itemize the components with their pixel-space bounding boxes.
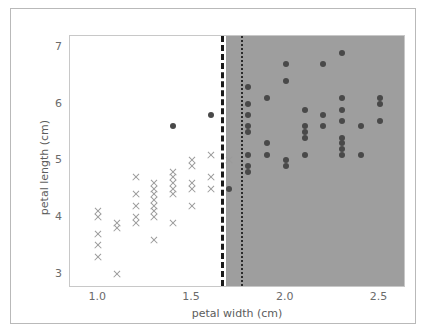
- data-point-cross: [187, 201, 196, 210]
- data-point-cross: [150, 235, 159, 244]
- data-point-cross: [112, 224, 121, 233]
- shaded-decision-region: [226, 36, 404, 286]
- data-point-cross: [94, 252, 103, 261]
- data-point-cross: [187, 156, 196, 165]
- data-point-cross: [94, 229, 103, 238]
- dotted-decision-boundary: [241, 36, 243, 286]
- data-point-cross: [206, 150, 215, 159]
- data-point-cross: [187, 179, 196, 188]
- data-point-cross: [150, 179, 159, 188]
- x-tick-label: 2.5: [370, 290, 388, 303]
- y-tick-label: 3: [40, 266, 62, 279]
- data-point-cross: [150, 190, 159, 199]
- data-point-cross: [94, 212, 103, 221]
- data-point-cross: [131, 201, 140, 210]
- data-point-cross: [169, 179, 178, 188]
- x-tick-label: 2.0: [276, 290, 294, 303]
- data-point-cross: [112, 218, 121, 227]
- data-point-cross: [150, 201, 159, 210]
- data-point-cross: [150, 207, 159, 216]
- x-tick-label: 1.5: [182, 290, 200, 303]
- data-point-cross: [150, 184, 159, 193]
- y-axis-title: petal length (cm): [38, 88, 51, 248]
- data-point-cross: [169, 167, 178, 176]
- x-axis-title: petal width (cm): [69, 307, 405, 320]
- data-point-cross: [150, 196, 159, 205]
- dashed-decision-boundary: [221, 36, 224, 286]
- data-point-cross: [187, 184, 196, 193]
- data-point-circle: [170, 123, 176, 129]
- data-point-cross: [187, 162, 196, 171]
- data-point-cross: [206, 173, 215, 182]
- chart-screenshot: 1.01.52.02.5 34567 petal width (cm) peta…: [0, 0, 427, 335]
- data-point-cross: [94, 207, 103, 216]
- data-point-cross: [206, 184, 215, 193]
- data-point-cross: [169, 184, 178, 193]
- data-point-cross: [131, 173, 140, 182]
- data-point-circle: [208, 112, 214, 118]
- figure-frame: 1.01.52.02.5 34567 petal width (cm) peta…: [10, 8, 416, 324]
- data-point-cross: [131, 218, 140, 227]
- data-point-cross: [169, 218, 178, 227]
- plot-area: [69, 35, 405, 287]
- data-point-cross: [131, 190, 140, 199]
- data-point-cross: [150, 212, 159, 221]
- data-point-cross: [94, 241, 103, 250]
- x-tick-label: 1.0: [88, 290, 106, 303]
- y-tick-label: 7: [40, 40, 62, 53]
- data-point-cross: [169, 173, 178, 182]
- data-point-cross: [112, 269, 121, 278]
- data-point-cross: [131, 212, 140, 221]
- data-point-cross: [169, 190, 178, 199]
